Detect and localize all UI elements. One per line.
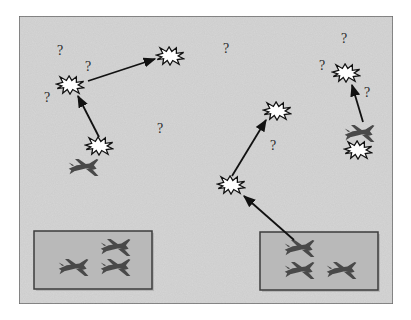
question-mark-icon: ? [157,121,163,136]
question-mark-icon: ? [57,43,63,58]
question-mark-icon: ? [223,41,229,56]
question-mark-icon: ? [319,58,325,73]
question-mark-icon: ? [85,59,91,74]
question-mark-icon: ? [270,138,276,153]
question-mark-icon: ? [44,90,50,105]
question-mark-icon: ? [364,85,370,100]
combat-diagram: ????????? [0,0,411,320]
base-left [34,231,154,291]
base-right [260,232,380,292]
question-mark-icon: ? [341,31,347,46]
